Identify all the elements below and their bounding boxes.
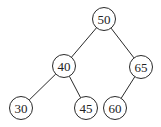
edge-65-60 <box>121 77 135 99</box>
tree-diagram: 504065304560 <box>0 0 161 127</box>
edge-50-65 <box>111 28 134 58</box>
node-label: 30 <box>15 101 28 116</box>
edge-50-40 <box>71 28 96 57</box>
tree-node-45: 45 <box>75 97 98 120</box>
node-label: 40 <box>58 59 71 74</box>
node-label: 60 <box>109 101 122 116</box>
tree-nodes: 504065304560 <box>10 8 153 120</box>
edge-40-30 <box>29 74 56 100</box>
node-label: 65 <box>135 60 148 75</box>
tree-node-60: 60 <box>104 97 127 120</box>
tree-node-30: 30 <box>10 97 33 120</box>
node-label: 45 <box>80 101 93 116</box>
tree-edges <box>29 28 135 100</box>
node-label: 50 <box>98 12 111 27</box>
tree-node-65: 65 <box>130 56 153 79</box>
tree-node-40: 40 <box>53 55 76 78</box>
edge-40-45 <box>69 76 80 98</box>
tree-node-50: 50 <box>93 8 116 31</box>
